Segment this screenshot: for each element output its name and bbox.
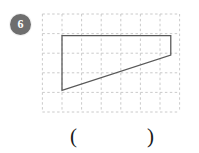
answer-open-paren: ( bbox=[70, 122, 77, 150]
trapezoid-shape bbox=[41, 14, 181, 112]
figure-area bbox=[41, 14, 181, 112]
answer-blank: ( ) bbox=[41, 122, 181, 150]
answer-close-paren: ) bbox=[147, 122, 154, 150]
problem-number-label: 6 bbox=[10, 14, 31, 35]
worksheet-problem: 6 ( ) bbox=[0, 0, 199, 153]
problem-number-badge: 6 bbox=[10, 14, 31, 35]
answer-input-value[interactable] bbox=[83, 122, 145, 150]
trapezoid-outline bbox=[62, 36, 171, 91]
